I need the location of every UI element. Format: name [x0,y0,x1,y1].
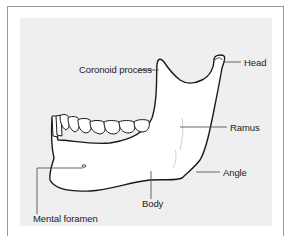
label-body: Body [142,198,163,209]
label-coronoid-process: Coronoid process [79,64,152,75]
label-angle: Angle [223,167,247,178]
label-mental-foramen: Mental foramen [33,213,98,224]
label-ramus: Ramus [230,122,260,133]
teeth [52,115,149,138]
label-head: Head [244,57,266,68]
